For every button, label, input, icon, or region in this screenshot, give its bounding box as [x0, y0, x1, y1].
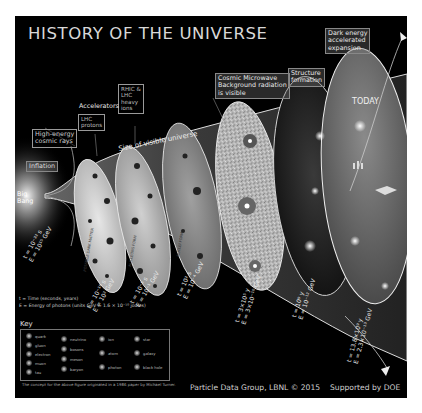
atom-icon — [99, 350, 105, 356]
key-label: electron — [35, 352, 51, 357]
label-rhic-lhc: RHIC & LHC heavy ions — [118, 84, 144, 114]
label-big-bang: Big Bang — [17, 191, 33, 206]
label-structure-formation: Structure formation — [288, 68, 325, 87]
key-item-atom: atom — [99, 350, 118, 356]
photon-icon — [99, 364, 105, 370]
key-item-bosons: bosons — [61, 346, 83, 352]
key-item-baryon: baryon — [61, 366, 83, 372]
key-item-gluon: gluon — [26, 342, 46, 348]
key-title: Key — [20, 320, 33, 328]
tau-icon — [26, 369, 32, 375]
black-hole-icon — [134, 364, 140, 370]
page-title: HISTORY OF THE UNIVERSE — [28, 24, 268, 43]
ion-icon — [99, 336, 105, 342]
key-item-galaxy: galaxy — [134, 350, 156, 356]
key-item-star: star — [134, 336, 150, 342]
star-icon — [134, 336, 140, 342]
meson-icon — [61, 356, 67, 362]
arrow-up-icon — [400, 32, 407, 41]
key-label: bosons — [70, 347, 83, 352]
key-label: quark — [35, 334, 46, 339]
label-line: expansion — [328, 45, 367, 52]
key-label: muon — [35, 361, 46, 366]
electron-icon — [26, 351, 32, 357]
key-item-electron: electron — [26, 351, 51, 357]
label-line: ions — [121, 105, 141, 111]
key-label: photon — [108, 365, 121, 370]
key-label: galaxy — [143, 351, 156, 356]
key-item-photon: photon — [99, 364, 121, 370]
key-item-quark: quark — [26, 333, 46, 339]
key-label: ion — [108, 337, 114, 342]
key-label: star — [143, 337, 150, 342]
key-label: atom — [108, 351, 118, 356]
key-caption: The concept for the above figure origina… — [22, 382, 176, 387]
key-label: black hole — [143, 365, 162, 370]
key-label: gluon — [35, 343, 46, 348]
label-line: cosmic rays — [35, 138, 74, 145]
key-item-black-hole: black hole — [134, 364, 162, 370]
label-accelerators: Accelerators — [79, 103, 119, 110]
legend-time-note: t = Time (seconds, years) — [19, 296, 78, 302]
baryon-icon — [61, 366, 67, 372]
legend-energy-note: E = Energy of photons (units GeV = 1.6 ×… — [19, 303, 146, 309]
label-line: is visible — [218, 90, 287, 97]
label-cosmic-rays: High-energy cosmic rays — [32, 129, 77, 148]
neutrino-icon — [61, 336, 67, 342]
credit-doe: Supported by DOE — [330, 383, 400, 392]
arrow-down-icon — [381, 366, 390, 376]
label-dark-energy: Dark energy accelerated expansion — [325, 28, 370, 54]
label-line: Bang — [17, 198, 33, 205]
key-item-ion: ion — [99, 336, 114, 342]
galaxy-icon — [134, 350, 140, 356]
label-line: protons — [81, 122, 102, 128]
key-item-muon: muon — [26, 360, 46, 366]
key-item-meson: meson — [61, 356, 83, 362]
bosons-icon — [61, 346, 67, 352]
label-cmb: Cosmic Microwave Background radiation is… — [215, 73, 290, 99]
credit-pdg: Particle Data Group, LBNL © 2015 — [190, 383, 320, 392]
key-label: neutrino — [70, 337, 86, 342]
muon-icon — [26, 360, 32, 366]
label-inflation: Inflation — [26, 161, 58, 172]
key-label: baryon — [70, 367, 83, 372]
quark-icon — [26, 333, 32, 339]
key-legend: quark gluon electron muon tau neutrino b… — [20, 329, 170, 381]
key-label: tau — [35, 370, 41, 375]
label-today: TODAY — [352, 98, 379, 105]
key-item-neutrino: neutrino — [61, 336, 86, 342]
infographic-panel: HISTORY OF THE UNIVERSE Dark energy acce… — [15, 16, 407, 398]
label-lhc-protons: LHC protons — [78, 114, 105, 131]
key-label: meson — [70, 357, 83, 362]
key-item-tau: tau — [26, 369, 41, 375]
label-line: formation — [291, 77, 322, 84]
gluon-icon — [26, 342, 32, 348]
